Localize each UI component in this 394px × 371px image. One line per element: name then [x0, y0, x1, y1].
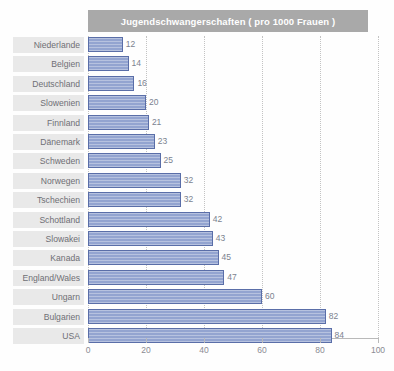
bar-chart: Jugendschwangerschaften ( pro 1000 Fraue…	[0, 0, 394, 371]
bar-row: England/Wales47	[0, 269, 394, 288]
bar-value-label: 21	[152, 117, 161, 127]
bar-value-label: 42	[213, 214, 222, 224]
bar-row: Belgien14	[0, 55, 394, 74]
bar-value-label: 32	[184, 194, 193, 204]
bar	[88, 95, 146, 110]
bar	[88, 153, 161, 168]
bar-row: Niederlande12	[0, 36, 394, 55]
category-label: Slowenien	[13, 95, 84, 111]
x-tick-label: 0	[73, 345, 103, 355]
category-label: Deutschland	[13, 76, 84, 92]
x-tick-mark	[204, 338, 205, 343]
bar-value-label: 23	[158, 136, 167, 146]
x-tick-mark	[320, 338, 321, 343]
bar-row: Schottland42	[0, 211, 394, 230]
bar-value-label: 20	[149, 97, 158, 107]
bar	[88, 231, 213, 246]
x-tick-mark	[262, 338, 263, 343]
category-label: Tschechien	[13, 192, 84, 208]
category-label: Niederlande	[13, 37, 84, 53]
x-tick-label: 60	[247, 345, 277, 355]
x-tick-mark	[146, 338, 147, 343]
bar-row: Bulgarien82	[0, 308, 394, 327]
bar-value-label: 12	[126, 39, 135, 49]
bar-row: USA84	[0, 327, 394, 346]
bar-value-label: 82	[329, 311, 338, 321]
category-label: Ungarn	[13, 289, 84, 305]
bar-value-label: 43	[216, 233, 225, 243]
bar	[88, 115, 149, 130]
category-label: Dänemark	[13, 134, 84, 150]
category-label: Schottland	[13, 212, 84, 228]
bar	[88, 134, 155, 149]
bar	[88, 56, 129, 71]
category-label: Bulgarien	[13, 309, 84, 325]
bar-row: Schweden25	[0, 152, 394, 171]
x-tick-label: 100	[363, 345, 393, 355]
bar-row: Norwegen32	[0, 172, 394, 191]
bar	[88, 328, 332, 343]
bar	[88, 37, 123, 52]
x-tick-mark	[88, 338, 89, 343]
bar	[88, 173, 181, 188]
category-label: Finnland	[13, 115, 84, 131]
bar-row: Kanada45	[0, 249, 394, 268]
bar-row: Finnland21	[0, 114, 394, 133]
bar-value-label: 16	[137, 78, 146, 88]
bar-value-label: 47	[227, 272, 236, 282]
bar-value-label: 14	[132, 58, 141, 68]
bar-row: Slowenien20	[0, 94, 394, 113]
bar	[88, 250, 219, 265]
bar-value-label: 25	[164, 155, 173, 165]
bar-value-label: 84	[335, 330, 344, 340]
category-label: Norwegen	[13, 173, 84, 189]
bar	[88, 309, 326, 324]
x-tick-label: 20	[131, 345, 161, 355]
bar	[88, 192, 181, 207]
bar-row: Slowakei43	[0, 230, 394, 249]
bar	[88, 289, 262, 304]
bar-row: Dänemark23	[0, 133, 394, 152]
x-tick-mark	[378, 338, 379, 343]
bar-row: Tschechien32	[0, 191, 394, 210]
bar-row: Deutschland16	[0, 75, 394, 94]
x-tick-label: 80	[305, 345, 335, 355]
category-label: Schweden	[13, 153, 84, 169]
bar	[88, 270, 224, 285]
category-label: England/Wales	[13, 270, 84, 286]
bar-value-label: 45	[222, 252, 231, 262]
bar-row: Ungarn60	[0, 288, 394, 307]
bar-value-label: 60	[265, 291, 274, 301]
bar	[88, 76, 134, 91]
bar	[88, 212, 210, 227]
bar-value-label: 32	[184, 175, 193, 185]
category-label: Belgien	[13, 56, 84, 72]
chart-title: Jugendschwangerschaften ( pro 1000 Fraue…	[88, 10, 368, 32]
category-label: Slowakei	[13, 231, 84, 247]
category-label: USA	[13, 328, 84, 344]
category-label: Kanada	[13, 250, 84, 266]
x-tick-label: 40	[189, 345, 219, 355]
